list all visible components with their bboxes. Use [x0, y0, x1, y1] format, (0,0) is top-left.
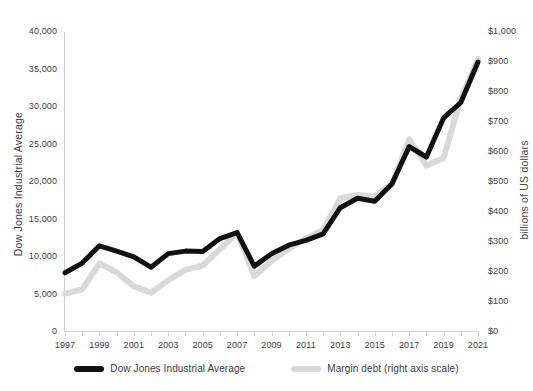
- right-tick-label: $1,000: [488, 26, 533, 36]
- x-tick-mark: [203, 332, 204, 336]
- x-tick-mark: [99, 332, 100, 336]
- x-tick-mark: [306, 332, 307, 336]
- left-tick-label: 25,000: [13, 139, 57, 149]
- plot-area: [65, 32, 478, 332]
- series-line-dow-jones: [65, 62, 478, 273]
- right-tick-label: $0: [488, 326, 533, 336]
- right-tick-label: $100: [488, 296, 533, 306]
- x-tick-mark: [392, 332, 393, 336]
- series-line-margin-debt: [65, 59, 478, 294]
- x-tick-mark: [134, 332, 135, 336]
- x-tick-mark: [254, 332, 255, 336]
- legend-label-dow: Dow Jones Industrial Average: [110, 363, 245, 374]
- x-tick-mark: [461, 332, 462, 336]
- x-tick-mark: [323, 332, 324, 336]
- x-tick-mark: [289, 332, 290, 336]
- x-tick-mark: [375, 332, 376, 336]
- legend-swatch-margin-icon: [291, 366, 321, 372]
- left-tick-label: 35,000: [13, 64, 57, 74]
- x-tick-mark: [340, 332, 341, 336]
- x-tick-mark: [426, 332, 427, 336]
- left-tick-label: 5,000: [13, 289, 57, 299]
- x-tick-mark: [237, 332, 238, 336]
- right-tick-label: $300: [488, 236, 533, 246]
- x-tick-label: 2021: [458, 340, 498, 350]
- x-tick-mark: [117, 332, 118, 336]
- left-tick-label: 15,000: [13, 214, 57, 224]
- right-tick-label: $700: [488, 116, 533, 126]
- right-tick-label: $200: [488, 266, 533, 276]
- legend-label-margin-debt: Margin debt (right axis scale): [327, 363, 458, 374]
- legend-swatch-dow-icon: [74, 366, 104, 372]
- left-tick-label: 30,000: [13, 101, 57, 111]
- left-tick-label: 10,000: [13, 251, 57, 261]
- x-tick-mark: [444, 332, 445, 336]
- x-tick-mark: [151, 332, 152, 336]
- series-svg: [65, 32, 478, 332]
- x-tick-mark: [409, 332, 410, 336]
- x-tick-mark: [82, 332, 83, 336]
- chart-legend: Dow Jones Industrial Average Margin debt…: [0, 363, 533, 374]
- x-tick-mark: [478, 332, 479, 336]
- left-tick-label: 20,000: [13, 176, 57, 186]
- x-tick-mark: [168, 332, 169, 336]
- x-tick-mark: [220, 332, 221, 336]
- left-tick-label: 40,000: [13, 26, 57, 36]
- right-tick-label: $800: [488, 86, 533, 96]
- right-tick-label: $600: [488, 146, 533, 156]
- legend-item-dow: Dow Jones Industrial Average: [74, 363, 245, 374]
- left-tick-label: 0: [13, 326, 57, 336]
- x-tick-mark: [358, 332, 359, 336]
- right-tick-label: $400: [488, 206, 533, 216]
- x-tick-mark: [272, 332, 273, 336]
- right-tick-label: $500: [488, 176, 533, 186]
- x-tick-mark: [65, 332, 66, 336]
- right-tick-label: $900: [488, 56, 533, 66]
- x-tick-mark: [185, 332, 186, 336]
- legend-item-margin-debt: Margin debt (right axis scale): [291, 363, 458, 374]
- chart-container: Dow Jones Industrial Average billions of…: [0, 0, 533, 391]
